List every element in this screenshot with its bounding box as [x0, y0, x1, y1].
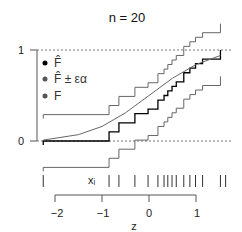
- y-tick-label-0: 0: [18, 135, 24, 147]
- legend-label-bands: F̂ ± εα: [54, 71, 87, 86]
- plot-lines: [43, 24, 220, 172]
- y-tick-label-1: 1: [18, 44, 24, 56]
- lower-band-line: [43, 76, 220, 171]
- legend-marker-bands: [43, 77, 48, 82]
- legend: F̂ F̂ ± εα F: [43, 55, 87, 103]
- x-axis-label: z: [131, 220, 137, 232]
- legend-label-ecdf: F̂: [54, 55, 61, 70]
- x-tick-label-1: 1: [194, 207, 200, 219]
- x-axis: −2 −1 0 1 z: [51, 195, 200, 232]
- ecdf-confidence-band-chart: n = 20 1 0 F̂ F̂ ± εα F xᵢ −2 −1 0 1 z: [0, 0, 242, 232]
- legend-marker-ecdf: [43, 61, 48, 66]
- y-axis: 1 0: [18, 44, 37, 147]
- legend-marker-true-cdf: [43, 94, 48, 99]
- x-tick-label-neg1: −1: [97, 207, 110, 219]
- chart-title: n = 20: [109, 10, 146, 25]
- legend-label-true-cdf: F: [54, 89, 61, 103]
- x-tick-label-neg2: −2: [51, 207, 64, 219]
- ecdf-line: [43, 50, 220, 145]
- sample-rug: [43, 175, 225, 187]
- rug-label: xᵢ: [88, 174, 96, 186]
- x-tick-label-0: 0: [146, 207, 152, 219]
